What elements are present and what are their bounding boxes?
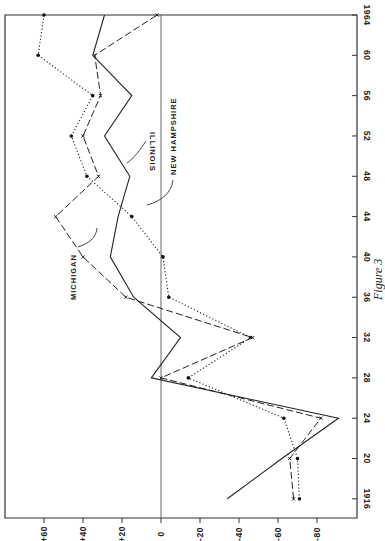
year-tick-label: 20 [362, 453, 372, 463]
data-point-dot [296, 457, 300, 461]
year-tick-label: 1916 [362, 488, 372, 509]
series-line-illinois [93, 15, 339, 499]
data-point-dot [298, 497, 302, 501]
data-point-x [54, 215, 57, 218]
data-point-dot [282, 416, 286, 420]
value-tick-label: -20 [195, 527, 205, 541]
year-tick-label: 60 [362, 50, 372, 60]
label-illinois: ILLINOIS [148, 132, 157, 172]
series-group [36, 13, 338, 500]
series-line-michigan [56, 15, 321, 499]
year-tick-label: 28 [362, 373, 372, 383]
data-point-dot [167, 295, 171, 299]
data-point-dot [91, 94, 95, 98]
value-tick-label: +60 [39, 526, 49, 541]
value-tick-label: +40 [78, 526, 88, 541]
value-tick-label: 0 [156, 531, 166, 536]
data-point-dot [187, 376, 191, 380]
data-point-dot [36, 54, 40, 58]
data-point-dot [42, 13, 46, 17]
label-new-hampshire: NEW HAMPSHIRE [169, 97, 178, 175]
data-point-x [124, 296, 127, 299]
year-tick-label: 44 [362, 211, 372, 221]
axes: +60+40+200-20-40-60-80191620242832364044… [5, 5, 372, 541]
year-tick-label: 1964 [362, 5, 372, 26]
value-tick-label: -80 [312, 527, 322, 541]
year-tick-label: 52 [362, 131, 372, 141]
value-tick-label: -40 [234, 527, 244, 541]
line-chart: +60+40+200-20-40-60-80191620242832364044… [0, 0, 385, 541]
data-point-x [81, 255, 84, 258]
data-point-dot [161, 255, 165, 259]
value-tick-label: +20 [117, 526, 127, 541]
year-tick-label: 24 [362, 413, 372, 423]
data-point-dot [70, 134, 74, 138]
year-tick-label: 56 [362, 90, 372, 100]
year-tick-label: 48 [362, 171, 372, 181]
figure-caption: Figure 3 [371, 259, 385, 301]
leader-illinois [127, 141, 146, 163]
data-point-x [288, 457, 291, 460]
label-michigan: MICHIGAN [69, 254, 78, 300]
value-tick-label: -60 [273, 527, 283, 541]
data-point-dot [130, 215, 134, 219]
year-tick-label: 32 [362, 332, 372, 342]
leader-new-hampshire [147, 180, 173, 205]
leader-michigan [78, 228, 97, 247]
data-point-dot [85, 174, 89, 178]
